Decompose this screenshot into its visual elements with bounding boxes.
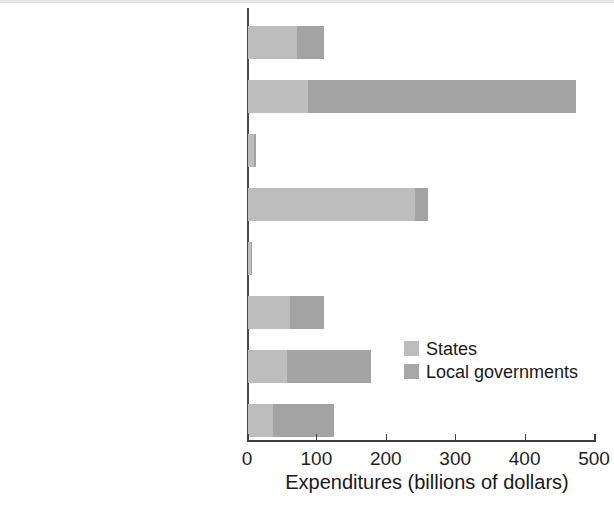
bar-segment: [415, 188, 427, 221]
legend-label-local-governments: Local governments: [426, 362, 578, 382]
legend-label-states: States: [426, 339, 477, 359]
bar-segment: [254, 134, 255, 167]
x-axis-tick: [386, 434, 387, 441]
x-axis-tick-label: 400: [509, 448, 541, 470]
chart-legend: States Local governments: [404, 337, 578, 383]
bar-segment: [248, 350, 287, 383]
x-axis-tick-label: 500: [578, 448, 610, 470]
bar-segment: [251, 242, 252, 275]
legend-item-states: States: [404, 337, 578, 360]
legend-item-local-governments: Local governments: [404, 360, 578, 383]
x-axis-tick-label: 100: [301, 448, 333, 470]
bar-segment: [248, 80, 308, 113]
x-axis-tick: [247, 434, 249, 442]
bar-segment: [308, 80, 576, 113]
bar-segment: [287, 350, 371, 383]
x-axis-tick: [455, 434, 456, 441]
x-axis-tick: [525, 434, 526, 441]
x-axis-tick: [594, 434, 596, 442]
x-axis-title: Expenditures (billions of dollars): [247, 470, 607, 494]
x-axis-tick-label: 300: [439, 448, 471, 470]
bar-segment: [248, 296, 290, 329]
x-axis-tick-label: 200: [370, 448, 402, 470]
bar-segment: [248, 188, 415, 221]
stacked-bar-chart: Income security Education Recreation and…: [0, 0, 614, 514]
x-axis-tick-label: 0: [242, 448, 253, 470]
x-axis-tick: [316, 434, 317, 441]
bar-segment: [297, 26, 325, 59]
bar-segment: [273, 404, 334, 437]
bar-segment: [248, 26, 297, 59]
bar-segment: [290, 296, 325, 329]
x-axis-line: [247, 440, 595, 442]
legend-swatch-local-governments-icon: [404, 364, 419, 379]
bar-segment: [248, 404, 273, 437]
legend-swatch-states-icon: [404, 341, 419, 356]
